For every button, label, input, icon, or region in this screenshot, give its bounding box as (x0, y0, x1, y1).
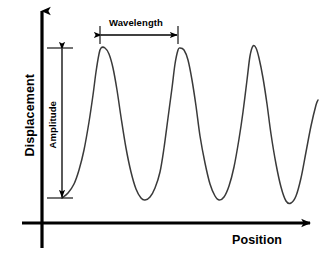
wave-curve (62, 45, 318, 203)
wavelength-label: Wavelength (109, 18, 163, 28)
amplitude-label: Amplitude (48, 94, 58, 156)
wave-diagram-figure: Displacement Position Wavelength Amplitu… (0, 0, 336, 259)
y-axis-label: Displacement (24, 59, 37, 171)
wavelength-annotation-group (100, 26, 178, 44)
x-axis-label: Position (232, 234, 282, 247)
wave-curve-group (62, 45, 318, 203)
